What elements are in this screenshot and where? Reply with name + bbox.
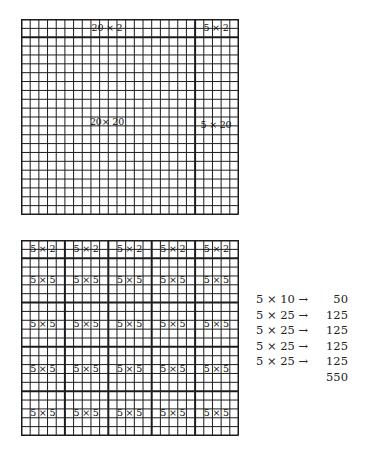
label-block-5x5: 5 × 5	[117, 364, 142, 374]
label-block-5x5: 5 × 5	[160, 319, 185, 329]
calc-row: 5 × 25 → 125	[256, 323, 348, 339]
calc-expression: 5 × 25 →	[256, 308, 308, 322]
calc-total-row: 550	[256, 370, 348, 386]
calc-row: 5 × 25 → 125	[256, 339, 348, 355]
label-strip-5x2: 5 × 2	[204, 244, 229, 254]
label-strip-5x2: 5 × 2	[30, 244, 55, 254]
label-block-5x5: 5 × 5	[30, 364, 55, 374]
label-block-5x5: 5 × 5	[30, 408, 55, 418]
label-block-5x5: 5 × 5	[204, 364, 229, 374]
calc-expression: 5 × 25 →	[256, 339, 308, 353]
label-block-5x5: 5 × 5	[74, 319, 99, 329]
calc-expression: 5 × 25 →	[256, 354, 308, 368]
calc-row: 5 × 10 → 50	[256, 292, 348, 308]
label-block-5x5: 5 × 5	[160, 408, 185, 418]
label-block-5x5: 5 × 5	[117, 275, 142, 285]
label-top-corner: 5 × 2	[203, 23, 228, 33]
label-strip-5x2: 5 × 2	[74, 244, 99, 254]
label-block-5x5: 5 × 5	[30, 319, 55, 329]
label-block-5x5: 5 × 5	[74, 408, 99, 418]
calc-value: 125	[326, 354, 348, 368]
calc-expression: 5 × 10 →	[256, 292, 308, 306]
calc-value: 125	[326, 323, 348, 337]
calc-value: 125	[326, 308, 348, 322]
label-top-strip: 20 × 2	[92, 23, 123, 33]
label-top-main: 20× 20	[90, 117, 124, 127]
label-top-right-strip: 5 × 20	[201, 120, 232, 130]
label-block-5x5: 5 × 5	[204, 319, 229, 329]
label-block-5x5: 5 × 5	[160, 364, 185, 374]
calc-total: 550	[326, 370, 348, 384]
top-grid-20x20-decomposition	[21, 19, 239, 215]
calc-row: 5 × 25 → 125	[256, 354, 348, 370]
label-block-5x5: 5 × 5	[204, 408, 229, 418]
calculation-list: 5 × 10 → 50 5 × 25 → 125 5 × 25 → 125 5 …	[256, 292, 348, 386]
label-strip-5x2: 5 × 2	[160, 244, 185, 254]
calc-expression: 5 × 25 →	[256, 323, 308, 337]
calc-value: 50	[333, 292, 348, 306]
calc-row: 5 × 25 → 125	[256, 308, 348, 324]
label-block-5x5: 5 × 5	[74, 364, 99, 374]
calc-value: 125	[326, 339, 348, 353]
label-block-5x5: 5 × 5	[117, 319, 142, 329]
label-block-5x5: 5 × 5	[74, 275, 99, 285]
label-block-5x5: 5 × 5	[30, 275, 55, 285]
label-block-5x5: 5 × 5	[117, 408, 142, 418]
top-grid-lines	[21, 19, 239, 215]
label-strip-5x2: 5 × 2	[117, 244, 142, 254]
label-block-5x5: 5 × 5	[160, 275, 185, 285]
label-block-5x5: 5 × 5	[204, 275, 229, 285]
